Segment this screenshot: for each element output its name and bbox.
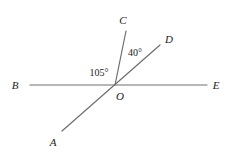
angle-label-40: 40° bbox=[128, 48, 142, 58]
geometry-canvas bbox=[0, 0, 230, 157]
point-label-B: B bbox=[12, 80, 19, 91]
angle-label-105: 105° bbox=[90, 68, 109, 78]
point-label-E: E bbox=[213, 80, 220, 91]
line-segment-AD bbox=[62, 45, 160, 131]
point-label-C: C bbox=[119, 15, 126, 26]
point-label-O: O bbox=[116, 91, 124, 102]
point-label-D: D bbox=[165, 34, 173, 45]
point-label-A: A bbox=[50, 137, 57, 148]
geometry-figure: B E C D A O 105° 40° bbox=[0, 0, 230, 157]
